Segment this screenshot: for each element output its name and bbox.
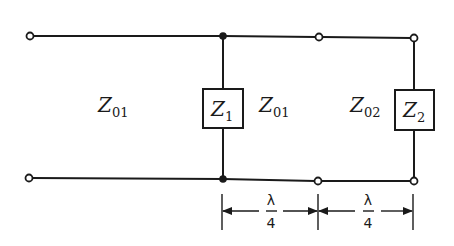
dim1-denominator: 4 <box>267 215 276 231</box>
label-z01-left: Z01 <box>97 93 128 120</box>
terminal-top-mid <box>316 34 323 41</box>
circuit-diagram: Z01 Z1 Z01 Z02 Z2 λ 4 λ 4 <box>0 0 454 246</box>
terminal-bottom-mid <box>315 178 322 185</box>
terminal-top-right <box>411 35 418 42</box>
terminal-bottom-right <box>411 178 418 185</box>
dim2-denominator: 4 <box>364 215 373 231</box>
dim2-numerator: λ <box>364 192 372 208</box>
label-z01-mid: Z01 <box>258 93 289 120</box>
terminal-bottom-left <box>26 175 33 182</box>
label-z02: Z02 <box>349 93 380 120</box>
terminal-top-left <box>27 33 34 40</box>
junction-bottom <box>219 175 227 183</box>
junction-top <box>219 32 227 40</box>
dim1-numerator: λ <box>267 192 275 208</box>
dimension-markers: λ 4 λ 4 <box>222 192 413 231</box>
